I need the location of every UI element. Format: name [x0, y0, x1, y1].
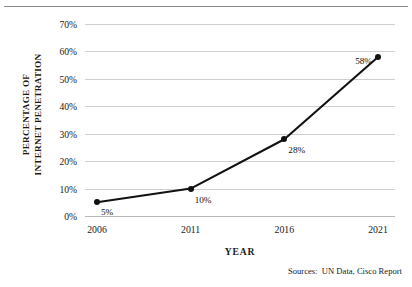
- y-axis-tick-label: 60%: [27, 46, 77, 57]
- y-axis-tick-label: 70%: [27, 19, 77, 30]
- data-point-label: 10%: [195, 195, 212, 205]
- y-axis-tick-label: 40%: [27, 101, 77, 112]
- data-point-label: 58%: [355, 56, 372, 66]
- data-point-marker: [375, 54, 381, 60]
- y-axis-tick-label: 20%: [27, 156, 77, 167]
- gridline: [85, 216, 395, 217]
- y-axis-tick-label: 50%: [27, 73, 77, 84]
- x-axis-tick-label: 2011: [161, 224, 221, 235]
- y-axis-tick-label: 10%: [27, 183, 77, 194]
- data-point-label: 5%: [101, 207, 113, 217]
- x-axis-tick-label: 2021: [348, 224, 408, 235]
- source-note: Sources: UN Data, Cisco Report: [288, 266, 402, 276]
- y-axis-tick-label: 0%: [27, 211, 77, 222]
- chart-figure: PERCENTAGE OF INTERNET PENETRATION 70%60…: [0, 0, 412, 287]
- data-point-marker: [188, 186, 194, 192]
- data-point-label: 28%: [288, 145, 305, 155]
- series-line: [85, 24, 395, 216]
- y-axis-tick-label: 30%: [27, 128, 77, 139]
- x-axis-title: YEAR: [85, 246, 395, 257]
- top-divider: [4, 6, 408, 7]
- plot-area: 70%60%50%40%30%20%10%0% 2006201120162021…: [85, 24, 395, 216]
- x-axis-tick-label: 2006: [67, 224, 127, 235]
- x-axis-tick-label: 2016: [254, 224, 314, 235]
